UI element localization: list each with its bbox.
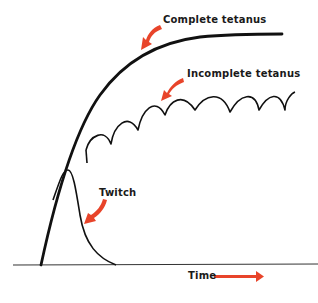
label-incomplete-tetanus: Incomplete tetanus	[187, 68, 300, 79]
label-twitch: Twitch	[99, 187, 136, 198]
arrow-time	[214, 271, 264, 282]
label-complete-tetanus: Complete tetanus	[163, 14, 267, 25]
arrow-incomplete-tetanus	[161, 78, 184, 101]
incomplete-tetanus-tail	[86, 150, 87, 163]
time-baseline	[13, 264, 318, 265]
incomplete-tetanus-curve	[86, 92, 295, 150]
muscle-contraction-diagram	[0, 0, 318, 303]
arrow-twitch	[84, 199, 107, 224]
label-time: Time	[188, 270, 216, 281]
